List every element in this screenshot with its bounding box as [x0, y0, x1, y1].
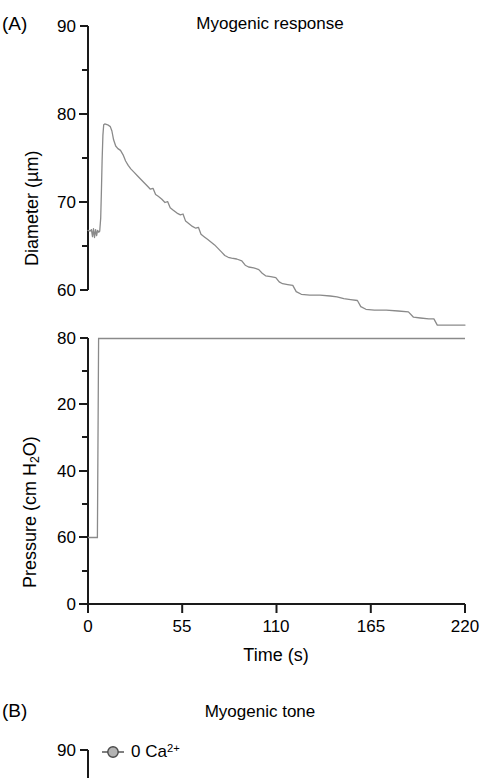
pressure-ytick-0: 0: [24, 595, 76, 615]
panel-a-title: Myogenic response: [120, 14, 420, 34]
pressure-ytick-40: 40: [24, 462, 76, 482]
xtick-110: 110: [246, 617, 306, 637]
panelB-axis: [80, 750, 88, 778]
pressure-ytick-20: 20: [24, 395, 76, 415]
panel-b-label: (B): [2, 700, 27, 722]
legend-item-0-ca: 0 Ca2+: [131, 742, 180, 762]
pressure-ytick-60: 60: [24, 528, 76, 548]
legend-marker-0-ca: [102, 747, 124, 757]
x-axis-label: Time (s): [196, 645, 356, 666]
diameter-ytick-60: 60: [24, 281, 76, 301]
diameter-ytick-80: 80: [24, 105, 76, 125]
diameter-axis-label-close: ): [22, 151, 42, 157]
pressure-axis: [79, 338, 465, 613]
panelb-ytick-90: 90: [24, 741, 76, 761]
legend-item-0-ca-text: 0 Ca: [131, 742, 167, 761]
xtick-165: 165: [341, 617, 401, 637]
pressure-axis-label: Pressure (cm H2O): [20, 436, 42, 588]
pressure-trace: [88, 339, 465, 538]
legend-item-0-ca-sup: 2+: [167, 742, 180, 754]
diameter-ytick-90: 90: [24, 17, 76, 37]
xtick-55: 55: [152, 617, 212, 637]
panel-b-title: Myogenic tone: [140, 702, 380, 722]
pressure-ytick-80: 80: [24, 329, 76, 349]
pressure-axis-label-close: O): [20, 436, 40, 456]
diameter-ytick-70: 70: [24, 193, 76, 213]
xtick-220: 220: [435, 617, 485, 637]
figure-root: (A) Myogenic response Diameter (µm) 60 7…: [0, 0, 485, 778]
diameter-trace: [88, 124, 465, 325]
diameter-axis-label-unit: µm: [22, 157, 42, 182]
diameter-axis: [79, 26, 88, 290]
xtick-0: 0: [58, 617, 118, 637]
